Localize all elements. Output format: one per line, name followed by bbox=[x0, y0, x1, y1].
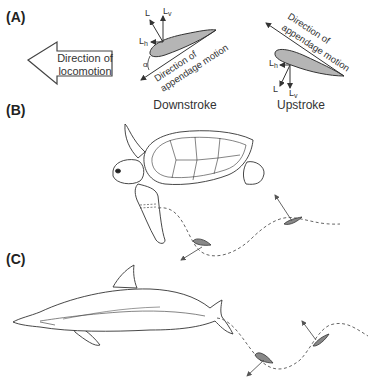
locomotion-arrow: Direction of locomotion bbox=[28, 42, 114, 84]
horizontal-lift-label: Lh bbox=[139, 36, 148, 47]
diagram-canvas: Direction of locomotion L Lv Lh α Direct… bbox=[0, 0, 370, 388]
upstroke-diagram: Direction of appendage motion Lh L Lv Up… bbox=[266, 10, 352, 112]
sea-turtle-illustration bbox=[113, 124, 264, 243]
locomotion-text-2: locomotion bbox=[58, 65, 111, 77]
turtle-foil-2 bbox=[284, 217, 302, 224]
locomotion-text-1: Direction of bbox=[57, 52, 114, 64]
upstroke-horizontal-lift-label: Lh bbox=[269, 58, 278, 69]
angle-label: α bbox=[143, 60, 148, 69]
vertical-lift-label: Lv bbox=[163, 6, 172, 17]
dolphin-foil-1 bbox=[255, 353, 273, 363]
turtle-foil-1 bbox=[193, 239, 211, 245]
downstroke-diagram: L Lv Lh α Direction of appendage motion … bbox=[139, 6, 230, 112]
dolphin-illustration bbox=[13, 265, 233, 345]
dolphin-fluke-path bbox=[217, 318, 368, 369]
dolphin-force-arrow-1-icon bbox=[247, 360, 264, 376]
upstroke-lift-label: L bbox=[273, 84, 278, 94]
upstroke-lift-arrow-icon bbox=[280, 65, 290, 86]
turtle-flipper-path bbox=[158, 208, 340, 256]
dolphin-force-arrow-2-icon bbox=[302, 321, 316, 340]
turtle-force-arrow-1-icon bbox=[181, 247, 202, 260]
lift-arrow-icon bbox=[150, 20, 163, 42]
lift-label: L bbox=[145, 8, 150, 18]
upstroke-caption: Upstroke bbox=[277, 98, 325, 112]
dolphin-foil-2 bbox=[313, 334, 329, 346]
turtle-force-arrow-2-icon bbox=[275, 195, 292, 221]
downstroke-caption: Downstroke bbox=[153, 98, 217, 112]
